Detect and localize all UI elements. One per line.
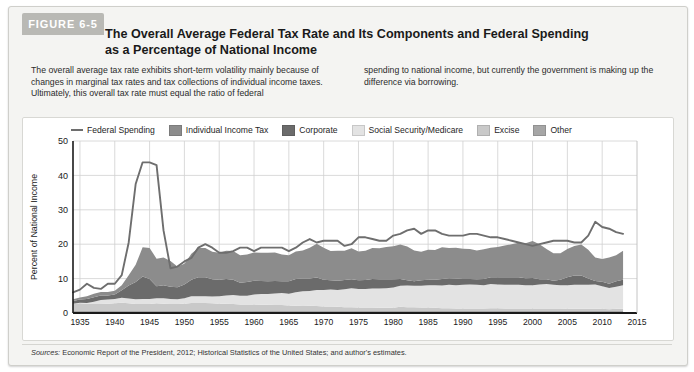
legend-item-excise: Excise	[477, 125, 519, 136]
legend-item-federal-spending: Federal Spending	[71, 125, 155, 135]
legend-swatch-box	[169, 125, 182, 136]
figure-card: FIGURE 6-5 The Overall Average Federal T…	[8, 6, 688, 366]
y-axis-tick-label: 50	[58, 138, 68, 146]
x-axis-tick-label: 2015	[627, 317, 646, 327]
legend-swatch-box	[533, 125, 546, 136]
x-axis-tick-label: 1945	[140, 317, 159, 327]
x-axis-tick-label: 1980	[384, 317, 403, 327]
x-axis-tick-label: 2000	[523, 317, 542, 327]
legend-label: Social Security/Medicare	[369, 125, 464, 135]
x-axis-tick-label: 2010	[593, 317, 612, 327]
figure-description-left: The overall average tax rate exhibits sh…	[31, 65, 353, 100]
y-axis-tick-label: 40	[58, 171, 68, 181]
legend-swatch-box	[282, 125, 295, 136]
chart-legend: Federal SpendingIndividual Income TaxCor…	[23, 122, 673, 138]
legend-item-other: Other	[533, 125, 572, 136]
figure-description-right: spending to national income, but current…	[364, 65, 686, 88]
x-axis-tick-label: 1935	[70, 317, 89, 327]
legend-swatch-box	[352, 125, 365, 136]
y-axis-title: Percent of National Income	[29, 174, 39, 280]
x-axis-tick-label: 1995	[488, 317, 507, 327]
legend-item-individual-income-tax: Individual Income Tax	[169, 125, 268, 136]
legend-swatch-box	[477, 125, 490, 136]
x-axis-tick-label: 1955	[210, 317, 229, 327]
legend-item-corporate: Corporate	[282, 125, 337, 136]
x-axis-tick-label: 1985	[419, 317, 438, 327]
y-axis-tick-label: 30	[58, 205, 68, 215]
x-axis-tick-label: 2005	[558, 317, 577, 327]
x-axis-tick-label: 1965	[279, 317, 298, 327]
x-axis-tick-label: 1970	[314, 317, 333, 327]
source-text: Economic Report of the President, 2012; …	[60, 348, 406, 357]
divider	[22, 344, 672, 345]
chart-plot: 0102030405019351940194519501955196019651…	[23, 138, 673, 338]
legend-label: Federal Spending	[87, 125, 155, 135]
source-note: Sources: Economic Report of the Presiden…	[31, 348, 671, 357]
y-axis-tick-label: 0	[63, 308, 68, 318]
x-axis-tick-label: 1990	[453, 317, 472, 327]
figure-title: The Overall Average Federal Tax Rate and…	[105, 27, 605, 58]
figure-number-label: FIGURE 6-5	[28, 18, 98, 30]
x-axis-tick-label: 1960	[244, 317, 263, 327]
legend-label: Individual Income Tax	[186, 125, 268, 135]
y-axis-tick-label: 20	[58, 239, 68, 249]
x-axis-tick-label: 1975	[349, 317, 368, 327]
x-axis-tick-label: 1950	[175, 317, 194, 327]
legend-swatch-line	[71, 129, 83, 131]
x-axis-tick-label: 1940	[105, 317, 124, 327]
chart-panel: Federal SpendingIndividual Income TaxCor…	[22, 117, 674, 341]
legend-item-social-security-medicare: Social Security/Medicare	[352, 125, 464, 136]
legend-label: Other	[550, 125, 572, 135]
figure-number-tab: FIGURE 6-5	[22, 13, 104, 35]
legend-label: Excise	[494, 125, 519, 135]
source-label: Sources:	[31, 348, 60, 357]
y-axis-tick-label: 10	[58, 274, 68, 284]
legend-label: Corporate	[299, 125, 337, 135]
